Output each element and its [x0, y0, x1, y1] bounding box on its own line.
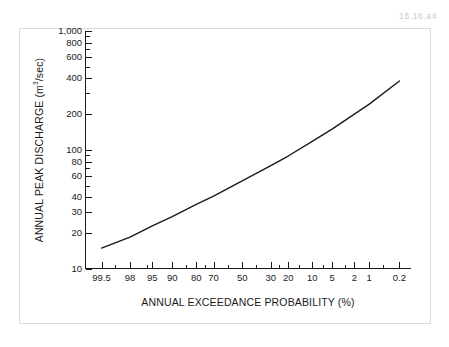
y-tick-label: 600 — [66, 53, 82, 63]
x-tick-label: 98 — [125, 273, 136, 283]
x-tick-label: 50 — [237, 273, 248, 283]
x-tick-label: 20 — [283, 273, 294, 283]
y-axis-title-superscript: 3 — [32, 81, 39, 85]
y-tick-label: 80 — [71, 157, 82, 167]
data-series-svg — [85, 31, 411, 269]
series-line-flood-frequency — [102, 81, 400, 248]
y-axis-title-after: /sec) — [33, 58, 45, 82]
y-tick-label: 800 — [66, 38, 82, 48]
x-tick-label: 90 — [167, 273, 178, 283]
x-tick-label: 1 — [367, 273, 372, 283]
y-tick-label: 1,000 — [58, 26, 82, 36]
y-axis-title-before: ANNUAL PEAK DISCHARGE (m — [33, 85, 45, 242]
y-tick-label: 200 — [66, 109, 82, 119]
x-tick-label: 30 — [266, 273, 277, 283]
x-tick-label: 10 — [307, 273, 318, 283]
x-tick-label: 5 — [329, 273, 334, 283]
x-tick-label: 95 — [147, 273, 158, 283]
y-tick-label: 20 — [71, 228, 82, 238]
x-tick-label: 99.5 — [92, 273, 111, 283]
y-tick-label: 400 — [66, 74, 82, 84]
x-tick-label: 0.2 — [393, 273, 406, 283]
y-tick-label: 40 — [71, 193, 82, 203]
y-tick-label: 100 — [66, 145, 82, 155]
x-tick-label: 80 — [191, 273, 202, 283]
y-tick-label: 30 — [71, 207, 82, 217]
plot-area: 1020304060801002004006008001,000 99.5989… — [85, 31, 411, 269]
x-axis-title: ANNUAL EXCEEDANCE PROBABILITY (%) — [85, 296, 411, 308]
x-tick-label: 70 — [208, 273, 219, 283]
figure-id-label: 16.16.a4 — [399, 11, 437, 21]
x-tick-label: 2 — [352, 273, 357, 283]
y-tick-label: 60 — [71, 172, 82, 182]
y-tick-major: 10 — [86, 269, 92, 270]
y-tick-label: 10 — [71, 264, 82, 274]
y-axis-title: ANNUAL PEAK DISCHARGE (m3/sec) — [32, 31, 45, 269]
